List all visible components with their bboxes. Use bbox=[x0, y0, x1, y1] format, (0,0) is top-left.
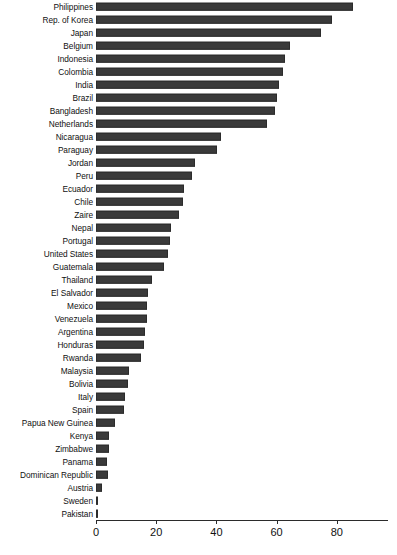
category-label: Bolivia bbox=[69, 379, 93, 388]
bar-row: Kenya bbox=[0, 429, 397, 442]
x-axis-tick-label: 80 bbox=[331, 526, 343, 539]
category-label: Netherlands bbox=[49, 119, 93, 128]
bar bbox=[96, 496, 98, 505]
bar bbox=[96, 353, 141, 362]
bar-track bbox=[96, 366, 129, 375]
bar-row: Ecuador bbox=[0, 182, 397, 195]
bar bbox=[96, 119, 267, 128]
bar-row: Brazil bbox=[0, 91, 397, 104]
bar-row: Dominican Republic bbox=[0, 468, 397, 481]
category-label: Belgium bbox=[63, 41, 93, 50]
bar bbox=[96, 171, 192, 180]
bar-track bbox=[96, 145, 217, 154]
category-label: Zimbabwe bbox=[55, 444, 93, 453]
bar bbox=[96, 431, 109, 440]
bar bbox=[96, 444, 109, 453]
category-label: Mexico bbox=[67, 301, 93, 310]
x-axis-tick-label: 0 bbox=[93, 526, 99, 539]
bar-row: Zimbabwe bbox=[0, 442, 397, 455]
bar bbox=[96, 41, 290, 50]
x-axis-tick bbox=[277, 520, 278, 524]
plot-area: PhilippinesRep. of KoreaJapanBelgiumIndo… bbox=[0, 0, 397, 520]
bar-row: Papua New Guinea bbox=[0, 416, 397, 429]
bar-track bbox=[96, 483, 102, 492]
category-label: Italy bbox=[78, 392, 93, 401]
category-label: Honduras bbox=[57, 340, 93, 349]
bar-track bbox=[96, 184, 184, 193]
x-axis-line bbox=[96, 520, 388, 521]
bar bbox=[96, 54, 285, 63]
category-label: Brazil bbox=[73, 93, 93, 102]
bar bbox=[96, 93, 277, 102]
bar-track bbox=[96, 119, 267, 128]
bar bbox=[96, 457, 107, 466]
bar-track bbox=[96, 431, 109, 440]
category-label: Jordan bbox=[68, 158, 93, 167]
bar bbox=[96, 405, 124, 414]
bar-track bbox=[96, 41, 290, 50]
bar-track bbox=[96, 444, 109, 453]
category-label: Nepal bbox=[72, 223, 93, 232]
bar-row: Guatemala bbox=[0, 260, 397, 273]
category-label: Portugal bbox=[62, 236, 93, 245]
bar-row: Zaire bbox=[0, 208, 397, 221]
bar bbox=[96, 28, 321, 37]
bar-row: Portugal bbox=[0, 234, 397, 247]
category-label: Sweden bbox=[63, 496, 93, 505]
bar-row: Argentina bbox=[0, 325, 397, 338]
category-label: Pakistan bbox=[62, 509, 93, 518]
bar-row: Panama bbox=[0, 455, 397, 468]
bar bbox=[96, 132, 221, 141]
bar-row: Nepal bbox=[0, 221, 397, 234]
bar-track bbox=[96, 28, 321, 37]
bar-track bbox=[96, 158, 195, 167]
bar-track bbox=[96, 262, 164, 271]
x-axis-tick bbox=[156, 520, 157, 524]
bar-track bbox=[96, 470, 108, 479]
bar-track bbox=[96, 301, 147, 310]
category-label: Rep. of Korea bbox=[42, 15, 93, 24]
bar bbox=[96, 249, 168, 258]
bar bbox=[96, 106, 275, 115]
bar bbox=[96, 379, 128, 388]
category-label: Malaysia bbox=[61, 366, 93, 375]
bar-track bbox=[96, 197, 183, 206]
category-label: Zaire bbox=[74, 210, 93, 219]
category-label: Austria bbox=[68, 483, 93, 492]
bar-track bbox=[96, 275, 152, 284]
category-label: Argentina bbox=[58, 327, 93, 336]
category-label: Papua New Guinea bbox=[22, 418, 93, 427]
category-label: El Salvador bbox=[51, 288, 93, 297]
x-axis: 020406080 bbox=[0, 520, 397, 555]
category-label: Colombia bbox=[58, 67, 93, 76]
bar-row: El Salvador bbox=[0, 286, 397, 299]
bar bbox=[96, 275, 152, 284]
bar-row: Sweden bbox=[0, 494, 397, 507]
bar-row: Indonesia bbox=[0, 52, 397, 65]
bar-row: Belgium bbox=[0, 39, 397, 52]
bar-row: Italy bbox=[0, 390, 397, 403]
bar-track bbox=[96, 496, 98, 505]
bar-row: Bangladesh bbox=[0, 104, 397, 117]
category-label: Ecuador bbox=[62, 184, 93, 193]
category-label: United States bbox=[44, 249, 93, 258]
bar bbox=[96, 288, 148, 297]
bar bbox=[96, 340, 144, 349]
bar-row: Pakistan bbox=[0, 507, 397, 520]
bar-row: Mexico bbox=[0, 299, 397, 312]
x-axis-tick bbox=[96, 520, 97, 524]
bar bbox=[96, 210, 179, 219]
category-label: Dominican Republic bbox=[20, 470, 93, 479]
horizontal-bar-chart: PhilippinesRep. of KoreaJapanBelgiumIndo… bbox=[0, 0, 397, 555]
bar-track bbox=[96, 132, 221, 141]
bar-track bbox=[96, 353, 141, 362]
bar-track bbox=[96, 288, 148, 297]
bar-track bbox=[96, 392, 125, 401]
bar bbox=[96, 366, 129, 375]
x-axis-tick-label: 20 bbox=[150, 526, 162, 539]
bar-track bbox=[96, 327, 145, 336]
bar-track bbox=[96, 80, 279, 89]
bar-track bbox=[96, 236, 170, 245]
bar-track bbox=[96, 171, 192, 180]
bar-row: Malaysia bbox=[0, 364, 397, 377]
